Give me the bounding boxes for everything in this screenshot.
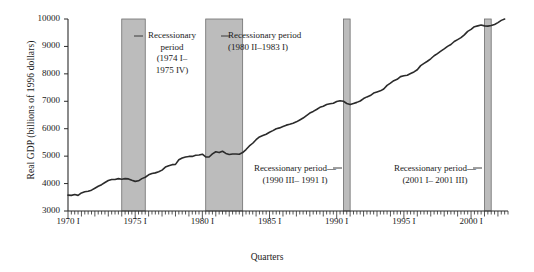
x-tick-label: 2000 I — [441, 216, 501, 226]
annotation-line: (2001 I– 2001 III) — [389, 175, 481, 187]
y-tick-label: 6000 — [20, 123, 60, 133]
annotation-line: (1974 I– — [141, 53, 203, 65]
recession-annotation-label: Recessionary period(1980 II–1983 I) — [228, 30, 332, 53]
y-tick-label: 9000 — [20, 40, 60, 50]
x-tick-label: 1980 I — [172, 216, 232, 226]
y-tick-label: 5000 — [20, 150, 60, 160]
x-tick-label: 1995 I — [374, 216, 434, 226]
y-tick-label: 7000 — [20, 95, 60, 105]
annotation-line: 1975 IV) — [141, 65, 203, 77]
y-tick-label: 10000 — [20, 13, 60, 23]
y-tick-label: 8000 — [20, 68, 60, 78]
annotation-line: Recessionary period— — [389, 163, 481, 175]
annotation-line: (1990 III– 1991 I) — [249, 175, 341, 187]
y-tick-label: 3000 — [20, 205, 60, 215]
annotation-line: period — [141, 42, 203, 54]
annotation-line: Recessionary — [141, 30, 203, 42]
y-tick-label: 4000 — [20, 178, 60, 188]
annotation-line: (1980 II–1983 I) — [228, 42, 332, 54]
x-tick-label: 1975 I — [105, 216, 165, 226]
y-tick-marks — [64, 19, 68, 211]
recession-band — [343, 19, 350, 211]
x-tick-label: 1970 I — [38, 216, 98, 226]
recession-band — [484, 19, 491, 211]
annotation-line: Recessionary period — [228, 30, 332, 42]
x-tick-label: 1990 I — [307, 216, 367, 226]
gdp-recession-chart: Real GDP (billions of 1996 dollars) Quar… — [0, 0, 534, 272]
annotation-line: Recessionary period— — [249, 163, 341, 175]
x-axis-title: Quarters — [0, 252, 534, 262]
x-tick-label: 1985 I — [240, 216, 300, 226]
recession-annotation-label: Recessionary period—(1990 III– 1991 I) — [249, 163, 341, 186]
recession-annotation-label: Recessionary period—(2001 I– 2001 III) — [389, 163, 481, 186]
recession-annotation-label: Recessionaryperiod(1974 I–1975 IV) — [141, 30, 203, 76]
